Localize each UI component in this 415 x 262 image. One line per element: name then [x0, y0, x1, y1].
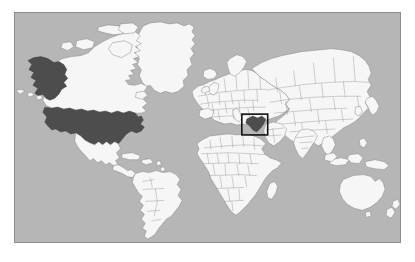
landmass-tasmania [365, 211, 371, 217]
map-frame [14, 12, 401, 243]
world-map-figure [0, 0, 415, 262]
world-map-svg [15, 13, 400, 242]
